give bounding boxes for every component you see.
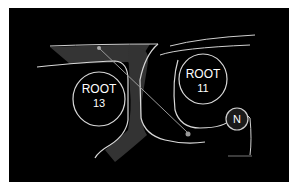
probe-dot bbox=[186, 132, 191, 137]
root-diagram: ROOT 13 ROOT 11 N bbox=[0, 0, 299, 193]
probe-tip bbox=[97, 46, 101, 50]
node-root-13: ROOT 13 bbox=[73, 72, 125, 126]
contour-line bbox=[170, 35, 255, 46]
node-root-11: ROOT 11 bbox=[179, 54, 227, 104]
node-value: 11 bbox=[197, 82, 208, 94]
node-label: ROOT bbox=[186, 67, 221, 81]
node-value: 13 bbox=[93, 97, 105, 109]
node-label: N bbox=[233, 113, 241, 125]
shaded-band-center bbox=[105, 48, 148, 162]
node-label: ROOT bbox=[82, 82, 117, 96]
node-n: N bbox=[226, 108, 251, 155]
